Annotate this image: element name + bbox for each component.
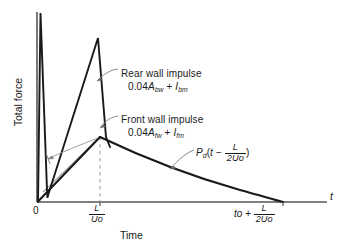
x-axis-label: Time — [120, 229, 143, 241]
decay-time-symbol: t — [210, 147, 213, 158]
blast-loading-chart: Total force Time t Rear wall impulse 0.0… — [0, 0, 346, 250]
decay-minus: − — [216, 147, 222, 158]
decay-leader-line — [171, 150, 194, 168]
front-wall-impulse-label: Front wall impulse — [121, 114, 203, 126]
front-plus: + — [165, 127, 171, 138]
rear-area-symbol: A — [148, 81, 155, 92]
front-wall-impulse-ramp — [39, 137, 101, 201]
rear-coefficient: 0.04 — [128, 81, 148, 92]
decay-fraction: L2Uo — [225, 143, 246, 163]
front-impulse-subscript: fm — [176, 132, 184, 139]
initial-front-wall-spike — [38, 13, 48, 202]
xtick-label-origin: 0 — [33, 205, 39, 217]
rear-wall-impulse-spike — [48, 38, 111, 197]
drag-pressure-decay-curve — [100, 137, 283, 202]
l-over-2uo-denominator: 2Uo — [254, 215, 275, 225]
front-area-symbol: A — [148, 127, 155, 138]
y-axis-label: Total force — [12, 58, 24, 146]
rear-area-subscript: bw — [155, 86, 164, 93]
to-symbol: to — [234, 208, 242, 219]
l-over-uo-fraction: LUo — [89, 204, 105, 224]
l-over-uo-denominator: Uo — [89, 215, 105, 225]
front-wall-impulse-formula: 0.04Afw + Ifm — [128, 127, 184, 140]
front-area-subscript: fw — [155, 132, 162, 139]
x-axis-symbol: t — [330, 190, 333, 202]
drag-decay-formula: Pd(t − L2Uo) — [196, 143, 249, 163]
xtick-label-to-plus-l-over-2uo: to + L2Uo — [234, 204, 275, 224]
rear-plus: + — [166, 81, 172, 92]
decay-fraction-denominator: 2Uo — [225, 154, 246, 164]
rear-wall-impulse-formula: 0.04Abw + Ibm — [128, 81, 188, 94]
rear-wall-impulse-label: Rear wall impulse — [121, 68, 202, 80]
decay-close-paren: ) — [246, 147, 249, 158]
rear-impulse-subscript: bm — [178, 86, 188, 93]
xtick-label-l-over-uo: LUo — [89, 204, 105, 224]
to-plus-sign: + — [245, 208, 251, 219]
decay-pressure-symbol: P — [196, 147, 203, 158]
l-over-2uo-fraction: L2Uo — [254, 204, 275, 224]
front-coefficient: 0.04 — [128, 127, 148, 138]
